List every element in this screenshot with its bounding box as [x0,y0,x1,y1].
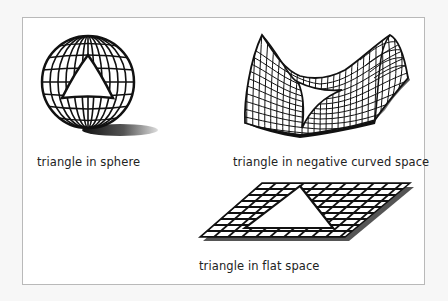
flat-diagram [190,183,420,241]
flat-caption: triangle in flat space [199,259,320,273]
saddle-caption: triangle in negative curved space [233,155,429,169]
curvature-illustrations [0,0,448,301]
saddle-diagram [240,30,410,140]
sphere-diagram [40,36,158,136]
sphere-caption: triangle in sphere [37,155,140,169]
